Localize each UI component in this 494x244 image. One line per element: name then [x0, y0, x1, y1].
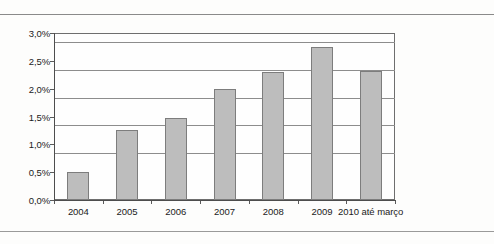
y-tick-label: 0,0% [6, 195, 50, 206]
y-tick-label: 0,5% [6, 167, 50, 178]
x-tick-label: 2010 até março [338, 206, 403, 217]
bar [360, 71, 382, 200]
x-tick-label: 2007 [214, 206, 235, 217]
bar [311, 47, 333, 200]
bar [165, 118, 187, 200]
bar [214, 89, 236, 200]
x-tick-label: 2009 [311, 206, 332, 217]
page-rule-bottom [0, 231, 494, 232]
y-axis-line [54, 33, 55, 200]
y-tick-label: 1,5% [6, 111, 50, 122]
bar [67, 172, 89, 200]
scanned-page: 0,0%0,5%1,0%1,5%2,0%2,5%3,0% 20042005200… [0, 0, 494, 244]
gridline [54, 70, 395, 71]
bar [262, 72, 284, 200]
gridline [54, 42, 395, 43]
y-tick-label: 2,5% [6, 55, 50, 66]
x-tick-label: 2005 [117, 206, 138, 217]
y-tick-label: 3,0% [6, 28, 50, 39]
x-axis-line [54, 200, 396, 201]
y-tick-label: 2,0% [6, 83, 50, 94]
x-tick-label: 2004 [68, 206, 89, 217]
x-tick-label: 2008 [263, 206, 284, 217]
bar [116, 130, 138, 200]
x-tick-label: 2006 [165, 206, 186, 217]
bar-chart: 0,0%0,5%1,0%1,5%2,0%2,5%3,0% 20042005200… [0, 14, 494, 231]
y-tick-label: 1,0% [6, 139, 50, 150]
